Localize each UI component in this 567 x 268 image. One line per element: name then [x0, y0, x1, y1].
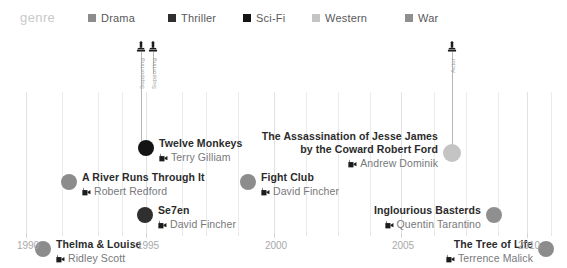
film-director-name: Quentin Tarantino — [397, 218, 481, 230]
film-label-the-assassination-of-jesse-james[interactable]: The Assassination of Jesse Jamesby the C… — [262, 130, 438, 171]
legend-swatch-icon — [243, 14, 251, 22]
film-label-se7en[interactable]: Se7enDavid Fincher — [158, 204, 236, 232]
film-director-name: Robert Redford — [94, 185, 167, 197]
legend-swatch-icon — [405, 14, 413, 22]
award-label: Supporting — [138, 58, 144, 89]
legend-item-label: Sci-Fi — [256, 12, 285, 24]
legend-item-label: Western — [325, 12, 367, 24]
axis-tick-minor — [370, 233, 371, 236]
legend-item-label: War — [418, 12, 438, 24]
legend-item-sci-fi[interactable]: Sci-Fi — [243, 12, 285, 24]
director-camera-icon — [261, 186, 270, 199]
film-director: Robert Redford — [82, 185, 205, 199]
film-label-inglourious-basterds[interactable]: Inglourious BasterdsQuentin Tarantino — [374, 204, 481, 232]
award-label: Actor — [449, 58, 455, 73]
film-director-name: Terry Gilliam — [171, 151, 231, 163]
film-director-name: David Fincher — [273, 185, 339, 197]
axis-tick-minor — [98, 233, 99, 236]
plot-area: SupportingSupportingActor Twelve Monkeys… — [0, 34, 567, 268]
axis-tick — [527, 233, 528, 238]
axis-tick-minor — [466, 233, 467, 236]
film-dot-fight-club[interactable] — [240, 174, 256, 190]
film-dot-the-assassination-of-jesse-james[interactable] — [443, 144, 461, 162]
film-title: Twelve Monkeys — [159, 137, 243, 150]
x-axis: 19901995200020052010 — [0, 233, 567, 268]
film-title: Inglourious Basterds — [374, 204, 481, 217]
director-camera-icon — [159, 152, 168, 165]
legend-item-thriller[interactable]: Thriller — [168, 12, 216, 24]
gridline-major — [527, 92, 528, 233]
axis-tick-label: 1995 — [137, 240, 159, 251]
director-camera-icon — [385, 219, 394, 232]
film-director: Quentin Tarantino — [374, 218, 481, 232]
axis-tick-minor — [238, 233, 239, 236]
film-director-name: David Fincher — [170, 218, 236, 230]
axis-tick-label: 2000 — [265, 240, 287, 251]
legend-item-label: Drama — [101, 12, 135, 24]
axis-tick-minor — [62, 233, 63, 236]
axis-tick — [26, 233, 27, 238]
film-director: David Fincher — [158, 218, 236, 232]
film-title: The Assassination of Jesse James — [262, 130, 438, 143]
axis-tick-minor — [122, 233, 123, 236]
legend-item-label: Thriller — [181, 12, 216, 24]
film-dot-twelve-monkeys[interactable] — [138, 140, 154, 156]
director-camera-icon — [348, 158, 357, 171]
axis-tick-label: 2005 — [392, 240, 414, 251]
film-label-fight-club[interactable]: Fight ClubDavid Fincher — [261, 171, 339, 199]
axis-tick — [401, 233, 402, 238]
award-marker[interactable]: Supporting — [137, 38, 146, 89]
legend-swatch-icon — [88, 14, 96, 22]
award-label: Supporting — [150, 58, 156, 89]
gridline-minor — [62, 92, 63, 233]
film-dot-inglourious-basterds[interactable] — [486, 207, 502, 223]
timeline-chart: genre DramaThrillerSci-FiWesternWar Supp… — [0, 0, 567, 268]
gridline-minor — [122, 92, 123, 233]
gridline-minor — [98, 92, 99, 233]
film-director: Terry Gilliam — [159, 151, 243, 165]
legend-item-war[interactable]: War — [405, 12, 438, 24]
axis-tick-minor — [498, 233, 499, 236]
axis-tick-minor — [206, 233, 207, 236]
genre-legend: genre DramaThrillerSci-FiWesternWar — [0, 0, 567, 34]
legend-swatch-icon — [312, 14, 320, 22]
film-title: A River Runs Through It — [82, 171, 205, 184]
axis-tick — [274, 233, 275, 238]
film-dot-a-river-runs-through-it[interactable] — [61, 174, 77, 190]
film-dot-se7en[interactable] — [137, 207, 153, 223]
legend-item-drama[interactable]: Drama — [88, 12, 135, 24]
director-camera-icon — [158, 219, 167, 232]
film-director-name: Andrew Dominik — [360, 157, 438, 169]
axis-tick-label: 2010 — [518, 240, 540, 251]
legend-item-western[interactable]: Western — [312, 12, 367, 24]
award-marker[interactable]: Supporting — [149, 38, 158, 89]
award-trophy-icon — [149, 38, 158, 56]
director-camera-icon — [82, 186, 91, 199]
film-director: Andrew Dominik — [262, 157, 438, 171]
award-marker[interactable]: Actor — [448, 38, 457, 73]
axis-tick-minor — [551, 233, 552, 236]
axis-tick-minor — [338, 233, 339, 236]
gridline-major — [26, 92, 27, 233]
film-title-line2: by the Coward Robert Ford — [262, 143, 438, 156]
axis-tick-minor — [182, 233, 183, 236]
film-label-twelve-monkeys[interactable]: Twelve MonkeysTerry Gilliam — [159, 137, 243, 165]
film-label-a-river-runs-through-it[interactable]: A River Runs Through ItRobert Redford — [82, 171, 205, 199]
film-director: David Fincher — [261, 185, 339, 199]
axis-tick-minor — [306, 233, 307, 236]
legend-swatch-icon — [168, 14, 176, 22]
film-title: Fight Club — [261, 171, 339, 184]
gridline-minor — [551, 92, 552, 233]
axis-tick-minor — [434, 233, 435, 236]
award-trophy-icon — [448, 38, 457, 56]
award-trophy-icon — [137, 38, 146, 56]
legend-title: genre — [20, 10, 55, 25]
axis-tick-label: 1990 — [17, 240, 39, 251]
film-title: Se7en — [158, 204, 236, 217]
axis-tick — [146, 233, 147, 238]
